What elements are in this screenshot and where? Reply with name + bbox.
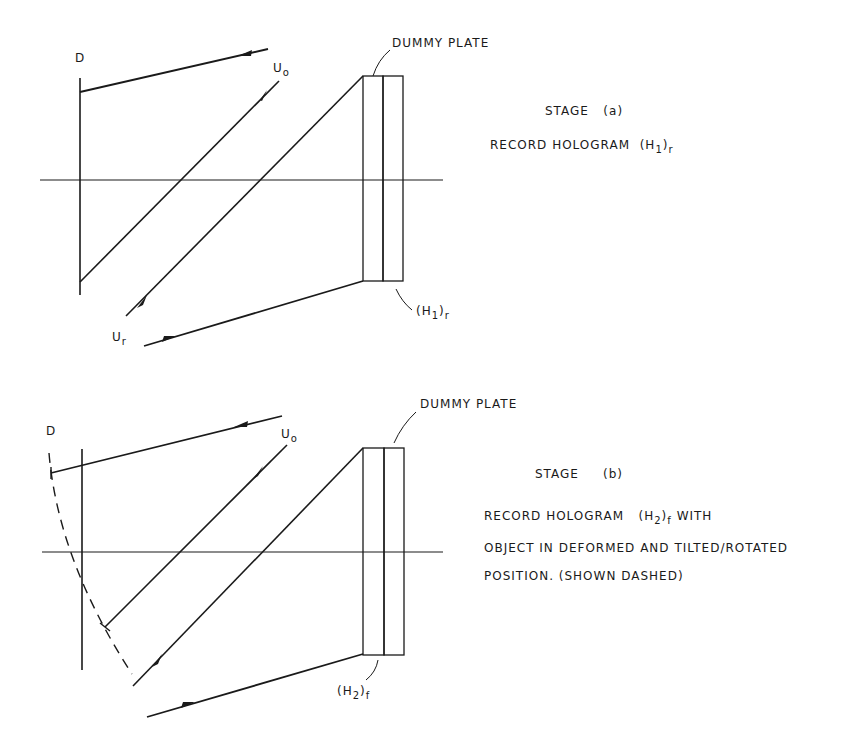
stage-a-figure — [40, 49, 443, 346]
caption-holo-index: 1 — [655, 144, 662, 155]
leader-hologram-a — [396, 289, 412, 310]
hologram-plate-a — [363, 76, 383, 281]
dummy-plate-a — [383, 76, 403, 281]
stage-letter: (a) — [603, 104, 623, 118]
reference-wave-symbol: U — [112, 330, 122, 344]
caption-text: RECORD HOLOGRAM — [490, 138, 630, 152]
illumination-ray-bottom-b — [147, 654, 363, 717]
stage-b-title: STAGE (b) — [535, 467, 623, 481]
leader-dummy-plate-b — [394, 412, 416, 443]
caption-suffix: WITH — [677, 509, 713, 523]
arrow-up-right-icon — [137, 295, 147, 308]
stage-b-figure — [42, 412, 443, 717]
object-wave-label-a: Uo — [273, 61, 290, 78]
object-wave-subscript: o — [283, 67, 290, 78]
object-wave-symbol: U — [273, 61, 283, 75]
stage-a-caption: RECORD HOLOGRAM (H1)r — [490, 138, 674, 155]
leader-hologram-b — [366, 660, 378, 680]
stage-a-title: STAGE (a) — [545, 104, 623, 118]
deformed-object-dashed — [49, 453, 132, 674]
object-wave-label-b: Uo — [281, 427, 298, 444]
arrow-left-icon — [238, 50, 252, 56]
stage-b-caption-line1: RECORD HOLOGRAM (H2)f WITH — [484, 509, 712, 526]
hologram-label-sub: f — [366, 690, 371, 701]
caption-holo-index: 2 — [654, 515, 661, 526]
caption-holo-sub: r — [668, 144, 673, 155]
caption-text: RECORD HOLOGRAM — [484, 509, 624, 523]
detector-label-b: D — [46, 424, 56, 438]
stage-b-caption-line2: OBJECT IN DEFORMED AND TILTED/ROTATED — [484, 541, 788, 555]
reference-wave-subscript: r — [122, 336, 127, 347]
caption-holo-sub: f — [667, 515, 672, 526]
stage-title-text: STAGE — [535, 467, 579, 481]
hologram-label-sub: r — [445, 310, 450, 321]
stage-letter: (b) — [603, 467, 623, 481]
caption-holo-prefix: (H — [640, 138, 656, 152]
hologram-label-index: 2 — [353, 690, 360, 701]
arrow-right-icon — [162, 336, 176, 342]
detector-label-a: D — [75, 51, 85, 65]
dummy-plate-label-b: DUMMY PLATE — [420, 397, 517, 411]
object-wave-symbol: U — [281, 427, 291, 441]
hologram-label-b: (H2)f — [337, 684, 370, 701]
leader-dummy-plate-a — [373, 50, 390, 76]
stage-title-text: STAGE — [545, 104, 589, 118]
hologram-label-index: 1 — [432, 310, 439, 321]
hologram-recording-diagram — [0, 0, 861, 741]
arrow-down-left-icon — [257, 90, 267, 104]
object-wave-ray-a — [80, 81, 279, 282]
object-wave-subscript: o — [291, 433, 298, 444]
arrow-left-icon — [234, 421, 248, 427]
hologram-label-prefix: (H — [416, 304, 432, 318]
hologram-label-prefix: (H — [337, 684, 353, 698]
dummy-plate-label-a: DUMMY PLATE — [392, 36, 489, 50]
reference-wave-label-a: Ur — [112, 330, 127, 347]
stage-b-caption-line3: POSITION. (SHOWN DASHED) — [484, 569, 684, 583]
caption-holo-prefix: (H — [638, 509, 654, 523]
reference-wave-ray-a — [126, 76, 363, 316]
illumination-ray-bottom-a — [144, 281, 363, 346]
hologram-label-a: (H1)r — [416, 304, 450, 321]
